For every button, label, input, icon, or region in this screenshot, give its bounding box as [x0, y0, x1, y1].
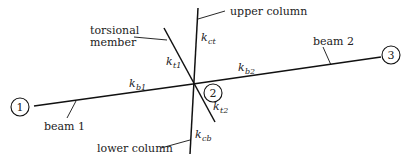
beam-2-line [193, 57, 381, 84]
node-3: 3 [382, 46, 400, 64]
k-ct-label: k ct [201, 31, 216, 46]
svg-text:k: k [213, 100, 220, 113]
beam-2-leader [323, 47, 331, 65]
k-b2-label: k b2 [238, 61, 255, 76]
svg-text:ct: ct [208, 37, 216, 46]
torsional-member-leader [134, 37, 167, 40]
svg-text:t1: t1 [173, 61, 181, 70]
k-t1-label: k t1 [166, 55, 181, 70]
k-t2-label: k t2 [213, 100, 228, 115]
beam-1-leader [67, 101, 76, 118]
svg-text:3: 3 [388, 49, 395, 62]
lower-column-label: lower column [97, 142, 173, 155]
k-b1-label: k b1 [129, 77, 146, 92]
k-cb-label: k cb [195, 128, 212, 143]
beam-1-line [34, 84, 193, 106]
upper-column-label: upper column [230, 5, 307, 18]
svg-text:t2: t2 [220, 106, 228, 115]
beam-1-label: beam 1 [44, 120, 85, 133]
svg-text:cb: cb [202, 134, 212, 143]
upper-column-leader [198, 11, 225, 19]
svg-text:b2: b2 [245, 67, 255, 76]
beam-2-label: beam 2 [313, 35, 354, 48]
svg-text:k: k [201, 31, 208, 44]
svg-text:b1: b1 [136, 83, 146, 92]
svg-text:k: k [129, 77, 136, 90]
svg-text:2: 2 [210, 87, 217, 100]
torsional-label-line2: member [90, 36, 137, 49]
svg-text:k: k [238, 61, 245, 74]
svg-text:k: k [166, 55, 173, 68]
node-1: 1 [11, 98, 29, 116]
svg-text:1: 1 [17, 101, 24, 114]
joint-stiffness-diagram: 1 2 3 upper column torsional member beam… [0, 0, 411, 159]
svg-text:k: k [195, 128, 202, 141]
